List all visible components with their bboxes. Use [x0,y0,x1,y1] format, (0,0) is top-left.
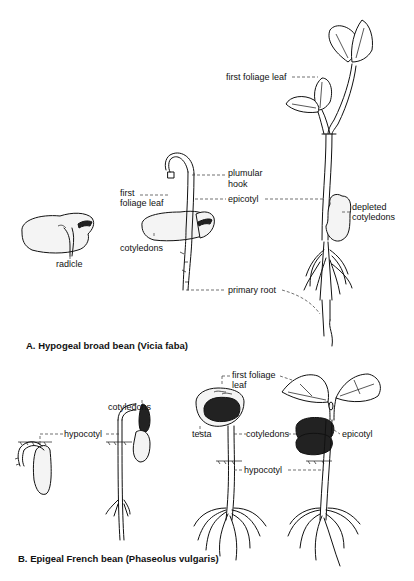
label-cotyledons-b1: cotyledons [108,402,151,412]
label-cotyledons-b2: cotyledons [246,429,289,439]
germination-diagram: radicle first foliage leaf cotyledons pl… [0,0,414,581]
label-first-foliage-leaf-a1: first [120,188,135,198]
label-epicotyl-b: epicotyl [342,429,373,439]
label-depleted-cotyledons-1: depleted [352,202,387,212]
soil-surface-lines [18,442,332,464]
label-epicotyl-a: epicotyl [228,194,259,204]
label-testa: testa [192,429,212,439]
label-primary-root: primary root [228,285,276,295]
french-bean-seedling-hook-emerging [106,404,150,540]
label-first-foliage-leaf-a3: first foliage leaf [226,72,287,82]
label-hypocotyl-b1: hypocotyl [64,429,102,439]
label-first-foliage-leaf-b2: leaf [232,380,247,390]
label-plumular-hook-2: hook [228,179,248,189]
label-first-foliage-leaf-a2: foliage leaf [120,198,164,208]
label-cotyledons-a: cotyledons [120,243,163,253]
broad-bean-seedling-hook [142,153,215,290]
broad-bean-seedling-mature [286,20,373,346]
caption-panel-a: A. Hypogeal broad bean (Vicia faba) [26,340,188,351]
french-bean-seedling-mature [282,374,380,566]
label-plumular-hook-1: plumular [228,168,263,178]
label-hypocotyl-b2: hypocotyl [244,465,282,475]
caption-panel-b: B. Epigeal French bean (Phaseolus vulgar… [18,553,219,564]
label-depleted-cotyledons-2: cotyledons [352,212,395,222]
french-bean-seed-hook [15,442,51,495]
label-radicle: radicle [56,259,83,269]
broad-bean-seed-radicle [22,213,94,256]
label-first-foliage-leaf-b1: first foliage [232,370,276,380]
